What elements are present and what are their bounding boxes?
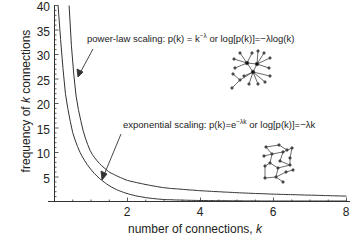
y-tick-label: 35 bbox=[37, 25, 51, 39]
x-tick-label: 8 bbox=[343, 205, 350, 219]
x-tick-labels: 2 4 6 8 bbox=[124, 205, 350, 219]
scale-free-network-icon bbox=[231, 50, 271, 89]
degree-distribution-chart: 5 10 15 20 25 30 35 40 2 4 6 8 number of… bbox=[0, 0, 364, 237]
y-axis-title: frequency of k connections bbox=[19, 30, 33, 173]
y-tick-label: 25 bbox=[37, 74, 51, 88]
y-axis-ticks bbox=[55, 6, 59, 197]
y-tick-label: 10 bbox=[37, 147, 51, 161]
x-tick-label: 6 bbox=[270, 205, 277, 219]
power-law-arrow bbox=[77, 49, 93, 77]
y-tick-label: 40 bbox=[37, 0, 51, 14]
x-tick-label: 4 bbox=[197, 205, 204, 219]
random-network-icon bbox=[263, 144, 294, 183]
x-tick-label: 2 bbox=[124, 205, 131, 219]
y-tick-label: 30 bbox=[37, 49, 51, 63]
y-tick-label: 15 bbox=[37, 123, 51, 137]
power-law-annotation: power-law scaling: p(k) = k−λ or log[p(k… bbox=[87, 32, 294, 44]
y-tick-label: 20 bbox=[37, 98, 51, 112]
exponential-annotation: exponential scaling: p(k)=e−λk or log[p(… bbox=[123, 118, 315, 130]
x-axis-title: number of connections, k bbox=[128, 222, 263, 236]
y-tick-label: 5 bbox=[43, 172, 50, 186]
y-tick-labels: 5 10 15 20 25 30 35 40 bbox=[37, 0, 51, 186]
